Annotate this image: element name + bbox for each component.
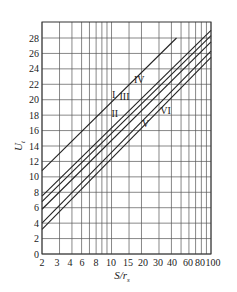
y-tick-label: 10 xyxy=(29,171,39,182)
y-tick-label: 12 xyxy=(29,156,39,167)
y-tick-label: 6 xyxy=(34,202,39,213)
series-line-VI xyxy=(42,57,211,229)
series-label-IV: IV xyxy=(134,74,145,85)
y-tick-label: 4 xyxy=(34,218,39,229)
x-tick-label: 6 xyxy=(80,257,85,268)
y-tick-label: 24 xyxy=(29,63,39,74)
x-tick-label: 20 xyxy=(138,257,148,268)
y-tick-label: 16 xyxy=(29,125,39,136)
y-axis-label: Ut xyxy=(12,140,27,151)
series-label-III: III xyxy=(119,91,129,102)
grid xyxy=(42,22,211,254)
y-tick-label: 20 xyxy=(29,94,39,105)
series-label-II: II xyxy=(112,108,119,119)
series-line-V xyxy=(42,51,211,223)
x-tick-label: 3 xyxy=(55,257,60,268)
x-tick-label: 60 xyxy=(183,257,193,268)
y-tick-label: 8 xyxy=(34,187,39,198)
y-tick-label: 2 xyxy=(34,233,39,244)
series-line-II xyxy=(42,30,211,196)
series-line-IV xyxy=(42,42,211,209)
data-lines xyxy=(42,30,211,229)
chart: IIIIIIIVVVI 0246810121416182022242628 23… xyxy=(0,0,237,292)
y-tick-label: 0 xyxy=(34,249,39,260)
y-tick-label: 18 xyxy=(29,110,39,121)
x-tick-label: 10 xyxy=(106,257,116,268)
x-tick-label: 8 xyxy=(94,257,99,268)
y-tick-label: 26 xyxy=(29,48,39,59)
y-axis-ticks: 0246810121416182022242628 xyxy=(29,33,39,260)
x-tick-label: 40 xyxy=(167,257,177,268)
series-line-I xyxy=(42,38,177,171)
x-tick-label: 2 xyxy=(40,257,45,268)
x-tick-label: 80 xyxy=(195,257,205,268)
x-tick-label: 15 xyxy=(123,257,133,268)
y-tick-label: 28 xyxy=(29,33,39,44)
x-tick-label: 4 xyxy=(68,257,73,268)
x-tick-label: 30 xyxy=(153,257,163,268)
series-label-V: V xyxy=(142,118,150,129)
x-tick-label: 100 xyxy=(206,257,221,268)
series-label-VI: VI xyxy=(160,105,171,116)
plot-frame xyxy=(42,22,211,254)
y-tick-label: 14 xyxy=(29,141,39,152)
y-tick-label: 22 xyxy=(29,79,39,90)
x-axis-label: S/rs xyxy=(114,269,130,284)
series-label-I: I xyxy=(112,89,115,100)
x-axis-ticks: 2346810152030406080100 xyxy=(40,257,221,268)
